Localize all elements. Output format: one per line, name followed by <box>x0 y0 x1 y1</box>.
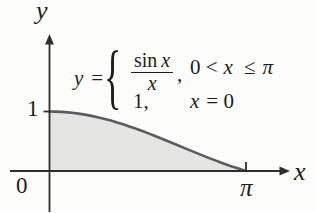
figure-canvas: y x 0 1 π y= { sinx x , 0 <x≤π 1, x= 0 <box>0 0 316 213</box>
equation-equals-sign: = <box>91 66 103 90</box>
y-axis-arrowhead <box>45 34 54 45</box>
x-axis-label: x <box>294 159 306 185</box>
y-axis-label: y <box>36 0 48 24</box>
case1-condition: 0 <x≤π <box>190 57 273 78</box>
equation-lhs-var: y <box>74 66 83 90</box>
case2-condition-rest: = 0 <box>206 89 234 113</box>
fraction-comma: , <box>177 64 182 85</box>
equation-curly-brace: { <box>104 40 121 112</box>
x-axis-arrowhead <box>280 167 291 176</box>
case2-condition-var: x <box>190 89 199 113</box>
y-tick-label-one: 1 <box>27 97 39 120</box>
equation-lhs: y= <box>74 68 103 89</box>
fraction-sinx-over-x: sinx x <box>131 49 173 93</box>
fraction-numerator: sinx <box>131 49 173 73</box>
plot-svg <box>0 0 316 213</box>
case1-condition-var: x <box>224 55 233 79</box>
case2-value: 1, <box>133 91 149 112</box>
origin-label: 0 <box>16 174 28 197</box>
sin-function-name: sin <box>134 49 157 71</box>
x-tick-label-pi: π <box>240 175 253 200</box>
case1-condition-pi: π <box>262 55 273 79</box>
case1-condition-pre: 0 < <box>190 55 218 79</box>
numerator-variable: x <box>161 49 170 71</box>
case1-condition-relation: ≤ <box>244 55 256 79</box>
case2-condition: x= 0 <box>190 91 234 112</box>
